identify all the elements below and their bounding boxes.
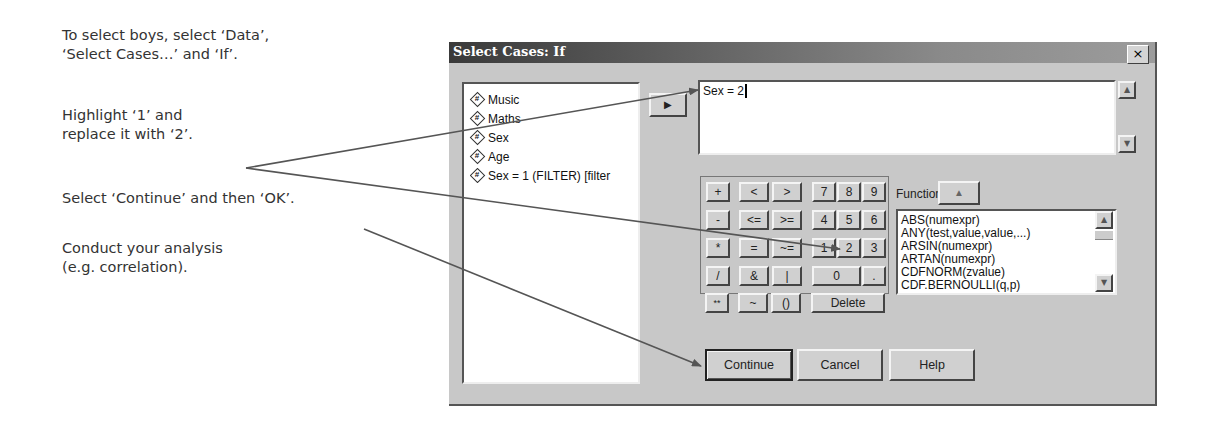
close-icon: × bbox=[1133, 46, 1144, 61]
key-label: >= bbox=[780, 213, 794, 227]
variable-label: Sex bbox=[488, 131, 509, 145]
key-label: 5 bbox=[846, 213, 853, 227]
functions-scroll-thumb[interactable] bbox=[1095, 231, 1113, 240]
numeric-variable-icon: # bbox=[470, 92, 484, 106]
expression-scroll-down-button[interactable]: ▼ bbox=[1118, 135, 1136, 153]
dialog-title: Select Cases: If bbox=[453, 44, 565, 59]
key-label: ~ bbox=[749, 296, 756, 310]
key-label: 1 bbox=[821, 241, 828, 255]
cancel-button[interactable]: Cancel bbox=[797, 349, 883, 381]
key-label: 8 bbox=[846, 185, 853, 199]
key-label: & bbox=[750, 269, 758, 283]
key-2[interactable]: 2 bbox=[837, 238, 861, 258]
instruction-line: Conduct your analysis bbox=[62, 239, 223, 258]
key-label: ** bbox=[713, 298, 720, 308]
numeric-variable-icon: # bbox=[470, 111, 484, 125]
key-power[interactable]: ** bbox=[705, 293, 729, 313]
key-greater-equal[interactable]: >= bbox=[772, 210, 802, 230]
key-label: - bbox=[716, 213, 720, 227]
instruction-line: Select ‘Continue’ and then ‘OK’. bbox=[62, 189, 295, 208]
key-or[interactable]: | bbox=[772, 266, 802, 286]
key-label: ~= bbox=[780, 241, 794, 255]
key-plus[interactable]: + bbox=[706, 182, 730, 202]
variable-item-music[interactable]: #Music bbox=[470, 92, 519, 107]
key-parentheses[interactable]: () bbox=[771, 293, 801, 313]
key-decimal[interactable]: . bbox=[862, 266, 886, 286]
key-less-than[interactable]: < bbox=[739, 182, 769, 202]
button-label: Help bbox=[919, 358, 945, 372]
key-and[interactable]: & bbox=[739, 266, 769, 286]
scroll-down-icon: ▼ bbox=[1124, 139, 1130, 148]
key-divide[interactable]: / bbox=[706, 266, 730, 286]
paste-function-button[interactable]: ▲ bbox=[938, 181, 980, 205]
expression-value: Sex = 2 bbox=[703, 84, 744, 98]
key-label: + bbox=[714, 185, 721, 199]
variable-item-maths[interactable]: #Maths bbox=[470, 111, 521, 126]
expression-text-wrap: Sex = 2 bbox=[703, 84, 747, 98]
key-label: Delete bbox=[831, 296, 866, 310]
key-9[interactable]: 9 bbox=[862, 182, 886, 202]
move-to-expression-button[interactable]: ▶ bbox=[649, 93, 687, 117]
key-8[interactable]: 8 bbox=[837, 182, 861, 202]
key-label: / bbox=[716, 269, 719, 283]
variable-list[interactable]: #Music #Maths #Sex #Age #Sex = 1 (FILTER… bbox=[462, 82, 640, 384]
key-label: = bbox=[750, 241, 757, 255]
variable-item-filter[interactable]: #Sex = 1 (FILTER) [filter bbox=[470, 168, 638, 183]
key-6[interactable]: 6 bbox=[862, 210, 886, 230]
help-button[interactable]: Help bbox=[889, 349, 975, 381]
key-label: > bbox=[783, 185, 790, 199]
functions-scroll-up-button[interactable]: ▲ bbox=[1095, 211, 1113, 229]
numeric-variable-icon: # bbox=[470, 149, 484, 163]
key-5[interactable]: 5 bbox=[837, 210, 861, 230]
key-equals[interactable]: = bbox=[739, 238, 769, 258]
key-greater-than[interactable]: > bbox=[772, 182, 802, 202]
scroll-up-icon: ▲ bbox=[1124, 85, 1130, 94]
close-button[interactable]: × bbox=[1127, 45, 1149, 64]
key-label: < bbox=[750, 185, 757, 199]
key-less-equal[interactable]: <= bbox=[739, 210, 769, 230]
numeric-variable-icon: # bbox=[470, 130, 484, 144]
instruction-highlight: Highlight ‘1’ and replace it with ‘2’. bbox=[62, 106, 193, 144]
key-label: 3 bbox=[871, 241, 878, 255]
button-label: Cancel bbox=[821, 358, 860, 372]
key-1[interactable]: 1 bbox=[812, 238, 836, 258]
functions-scroll-down-button[interactable]: ▼ bbox=[1095, 274, 1113, 292]
key-label: 9 bbox=[871, 185, 878, 199]
key-label: 2 bbox=[846, 241, 853, 255]
expression-scroll-up-button[interactable]: ▲ bbox=[1118, 81, 1136, 99]
key-7[interactable]: 7 bbox=[812, 182, 836, 202]
instruction-line: ‘Select Cases…’ and ‘If’. bbox=[62, 45, 269, 64]
instruction-select-cases: To select boys, select ‘Data’, ‘Select C… bbox=[62, 26, 269, 64]
select-cases-if-dialog: Select Cases: If × #Music #Maths #Sex #A… bbox=[449, 42, 1157, 406]
variable-label: Sex = 1 (FILTER) [filter bbox=[488, 169, 610, 183]
key-label: . bbox=[872, 269, 875, 283]
right-arrow-icon: ▶ bbox=[664, 99, 672, 110]
key-4[interactable]: 4 bbox=[812, 210, 836, 230]
key-minus[interactable]: - bbox=[706, 210, 730, 230]
key-label: <= bbox=[747, 213, 761, 227]
key-label: 6 bbox=[871, 213, 878, 227]
functions-list[interactable]: ABS(numexpr) ANY(test,value,value,...) A… bbox=[896, 209, 1117, 295]
key-label: 7 bbox=[821, 185, 828, 199]
scroll-down-icon: ▼ bbox=[1101, 278, 1107, 287]
up-arrow-icon: ▲ bbox=[954, 187, 964, 198]
key-3[interactable]: 3 bbox=[862, 238, 886, 258]
title-bar[interactable]: Select Cases: If × bbox=[449, 42, 1155, 63]
instruction-line: Highlight ‘1’ and bbox=[62, 106, 193, 125]
key-multiply[interactable]: * bbox=[706, 238, 730, 258]
continue-button[interactable]: Continue bbox=[705, 349, 793, 381]
key-not[interactable]: ~ bbox=[738, 293, 768, 313]
variable-item-sex[interactable]: #Sex bbox=[470, 130, 509, 145]
expression-textarea[interactable]: Sex = 2 bbox=[698, 80, 1116, 155]
key-label: | bbox=[785, 269, 788, 283]
function-item[interactable]: CDF.BERNOULLI(q,p) bbox=[901, 279, 1020, 292]
variable-label: Age bbox=[488, 150, 509, 164]
button-label: Continue bbox=[724, 358, 774, 372]
key-delete[interactable]: Delete bbox=[811, 293, 885, 313]
key-label: * bbox=[716, 241, 721, 255]
variable-item-age[interactable]: #Age bbox=[470, 149, 509, 164]
key-0[interactable]: 0 bbox=[812, 266, 861, 286]
key-not-equal[interactable]: ~= bbox=[772, 238, 802, 258]
text-caret bbox=[745, 84, 747, 98]
instruction-line: To select boys, select ‘Data’, bbox=[62, 26, 269, 45]
